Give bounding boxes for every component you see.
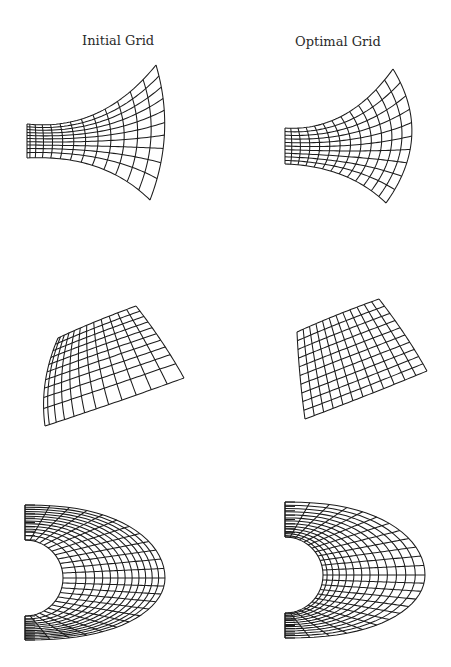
grid-line — [302, 349, 415, 393]
grid-line — [300, 335, 405, 376]
grid-line — [285, 136, 412, 147]
grid-line — [285, 69, 393, 128]
grid-line — [303, 357, 419, 402]
grid-line — [372, 302, 416, 376]
grid-line — [301, 342, 410, 384]
grid-line — [285, 82, 400, 131]
grid-line — [62, 559, 161, 568]
grid-line — [25, 532, 86, 621]
grid-line — [63, 568, 164, 573]
grid-line — [27, 158, 150, 200]
grid-line — [109, 316, 136, 395]
row2-optimal-grid-plot — [297, 299, 427, 419]
grid-line — [285, 96, 406, 136]
grid-line — [150, 65, 165, 200]
grid-line — [323, 580, 424, 583]
grid-line — [60, 550, 156, 563]
grid-line — [297, 299, 379, 332]
grid-line — [27, 145, 163, 148]
grid-line — [27, 87, 161, 130]
grid-line — [78, 328, 84, 413]
figure: Initial Grid Optimal Grid — [0, 0, 451, 667]
row3-initial-grid-plot — [25, 505, 165, 640]
row1-optimal-grid-plot — [285, 69, 412, 203]
row2-initial-grid-plot — [44, 306, 184, 426]
grid-line — [379, 80, 402, 197]
grid-line — [320, 547, 416, 560]
grid-line — [94, 322, 109, 404]
grid-line — [44, 364, 176, 409]
row3-optimal-grid-plot — [285, 502, 425, 638]
grid-line — [285, 164, 386, 203]
row1-initial-grid-plot — [27, 65, 165, 200]
grid-line — [305, 371, 427, 419]
grid-plots-canvas — [0, 0, 451, 667]
grid-line — [63, 583, 164, 586]
grid-line — [304, 364, 423, 411]
grid-line — [285, 537, 323, 613]
grid-line — [62, 588, 161, 594]
grid-line — [25, 540, 63, 616]
grid-line — [285, 149, 410, 151]
